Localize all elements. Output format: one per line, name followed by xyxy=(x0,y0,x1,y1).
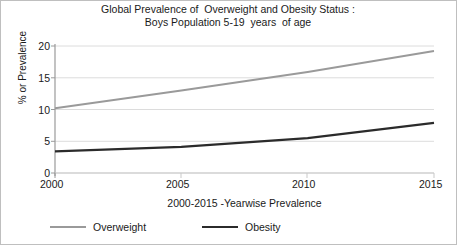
gridlines xyxy=(55,46,434,173)
series-line-overweight xyxy=(55,51,434,108)
series-line-obesity xyxy=(55,123,434,152)
legend-item-obesity[interactable]: Obesity xyxy=(202,219,281,235)
legend-swatch-obesity xyxy=(202,226,238,228)
chart-legend: Overweight Obesity xyxy=(50,219,410,239)
x-tick-2015: 2015 xyxy=(419,179,442,190)
x-tick-2010: 2010 xyxy=(292,179,315,190)
axis-lines xyxy=(51,44,434,178)
legend-item-overweight[interactable]: Overweight xyxy=(50,219,146,235)
x-tick-2000: 2000 xyxy=(40,179,63,190)
x-tick-2005: 2005 xyxy=(166,179,189,190)
legend-label-obesity: Obesity xyxy=(245,221,281,233)
legend-label-overweight: Overweight xyxy=(93,221,146,233)
legend-swatch-overweight xyxy=(50,226,86,228)
x-axis-label: 2000-2015 -Yearwise Prevalence xyxy=(55,197,434,209)
